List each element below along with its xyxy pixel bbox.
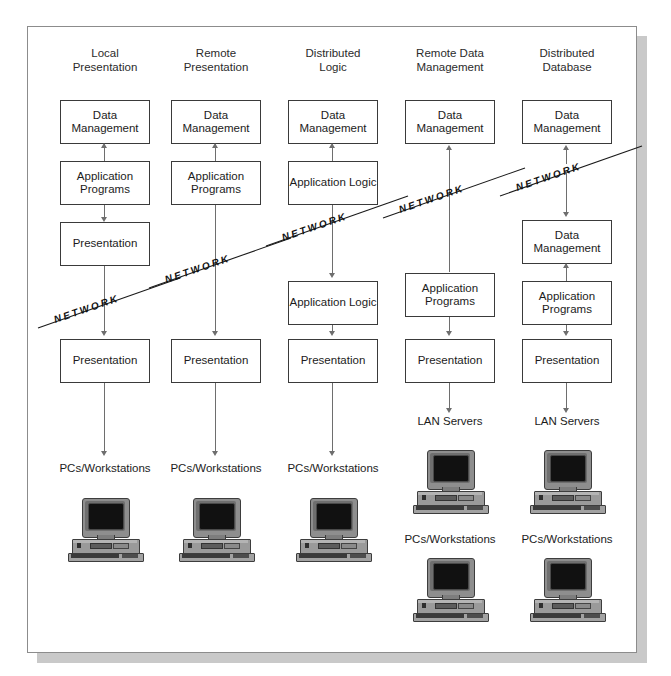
box-data-management: Data Management [60,100,150,144]
arrow-down-icon [329,273,335,278]
diagram-canvas: Local Presentation Remote Presentation D… [0,0,671,676]
arrow-down-icon [446,408,452,413]
box-label: Data Management [61,109,149,136]
arrow-down-icon [212,451,218,456]
arrow-down-icon [446,331,452,336]
box-presentation-client: Presentation [288,339,378,383]
desktop-computer-icon [530,450,604,512]
box-data-management-client: Data Management [522,220,612,264]
box-label: Data Management [523,109,611,136]
arrow-down-icon [329,331,335,336]
arrow-down-icon [563,408,569,413]
network-boundary-5: NETWORK [496,138,646,208]
box-presentation-client: Presentation [171,339,261,383]
connector-line [449,383,450,410]
desktop-computer-icon [68,498,142,560]
box-label: Data Management [172,109,260,136]
box-label: Presentation [73,237,138,251]
box-data-management: Data Management [171,100,261,144]
desktop-computer-icon [296,498,370,560]
arrow-down-icon [101,451,107,456]
arrow-up-icon [446,145,452,150]
connector-line [332,383,333,453]
box-label: Data Management [406,109,494,136]
box-label: Presentation [418,354,483,368]
box-label: Application Programs [523,290,611,317]
arrow-down-icon [563,212,569,217]
box-data-management: Data Management [288,100,378,144]
box-presentation-server: Presentation [405,339,495,383]
header-line-2: Database [497,60,637,74]
arrow-up-icon [563,263,569,268]
header-line-1: Distributed [497,46,637,60]
box-label: Application Programs [172,170,260,197]
desktop-computer-icon [530,558,604,620]
box-label: Application Logic [290,296,377,310]
arrow-up-icon [329,143,335,148]
box-presentation-client: Presentation [60,339,150,383]
text-lan-servers: LAN Servers [497,415,637,427]
box-label: Application Programs [406,282,494,309]
arrow-down-icon [329,451,335,456]
connector-line [566,383,567,410]
arrow-down-icon [563,331,569,336]
desktop-computer-icon [413,558,487,620]
desktop-computer-icon [413,450,487,512]
arrow-up-icon [101,143,107,148]
box-label: Presentation [535,354,600,368]
column-header-distributed-database: Distributed Database [497,46,637,74]
arrow-up-icon [212,143,218,148]
connector-line [566,172,567,214]
box-application-logic-client: Application Logic [288,281,378,325]
box-application-programs: Application Programs [171,161,261,205]
arrow-down-icon [212,331,218,336]
desktop-computer-icon [179,498,253,560]
box-label: Presentation [301,354,366,368]
box-presentation-server: Presentation [522,339,612,383]
text-pcs-workstations: PCs/Workstations [263,462,403,474]
box-data-management: Data Management [405,100,495,144]
box-application-programs: Application Programs [522,281,612,325]
connector-line [104,383,105,453]
box-label: Presentation [184,354,249,368]
connector-line [215,383,216,453]
box-label: Presentation [73,354,138,368]
box-label: Data Management [289,109,377,136]
box-application-programs: Application Programs [60,161,150,205]
box-label: Application Programs [61,170,149,197]
box-presentation-server: Presentation [60,222,150,266]
box-application-programs: Application Programs [405,273,495,317]
box-label: Data Management [523,229,611,256]
text-pcs-workstations: PCs/Workstations [497,533,637,545]
